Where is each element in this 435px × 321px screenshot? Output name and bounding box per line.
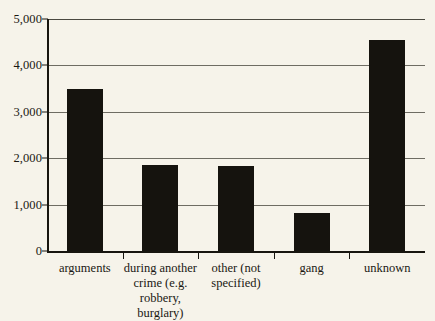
y-axis-labels: 01,0002,0003,0004,0005,000 [0,0,42,312]
y-axis-line [47,19,49,252]
y-tick-label-2000: 2,000 [13,151,42,166]
y-tick-label-3000: 3,000 [13,104,42,119]
plot-area [47,19,425,251]
bar-1 [142,165,178,251]
x-category-label-4: unknown [342,261,432,276]
x-axis-line [47,251,425,253]
x-tick-mark-4 [349,253,350,259]
y-tick-label-5000: 5,000 [13,12,42,27]
gridline-5000 [47,19,425,20]
x-tick-mark-3 [274,253,275,259]
x-tick-mark-1 [123,253,124,259]
bar-3 [294,213,330,252]
y-tick-label-4000: 4,000 [13,58,42,73]
bar-2 [218,166,254,251]
bar-0 [67,89,103,251]
x-tick-mark-2 [198,253,199,259]
x-category-label-1-line-2: robbery, burglary) [116,291,206,321]
bar-4 [369,40,405,251]
x-category-label-2-line-1: specified) [191,276,281,291]
x-category-label-4-line-0: unknown [342,261,432,276]
y-tick-label-1000: 1,000 [13,197,42,212]
